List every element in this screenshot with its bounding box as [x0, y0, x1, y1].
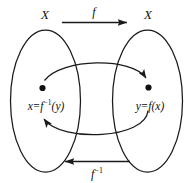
x-element-label: x=f−1(y) — [28, 98, 65, 112]
forward-map-label: f — [92, 5, 95, 20]
y-element-dot — [145, 84, 151, 90]
x-element-label-argument: (y) — [52, 100, 65, 112]
x-element-label-equals: = — [33, 100, 41, 112]
forward-map-label-text: f — [92, 5, 95, 19]
y-element-label: y=f(x) — [136, 98, 165, 112]
inverse-curve-arrow — [44, 111, 148, 135]
domain-set-label: X — [41, 7, 49, 23]
y-element-label-argument: (x) — [152, 100, 165, 112]
inverse-map-label: f−1 — [91, 166, 103, 182]
x-element-dot — [39, 85, 45, 91]
y-element-label-equals: = — [141, 100, 149, 112]
inverse-function-diagram: X X f f−1 x=f−1(y) y=f(x) — [0, 0, 192, 183]
x-element-label-exponent: −1 — [43, 98, 51, 107]
codomain-set-label: X — [144, 7, 152, 23]
forward-curve-arrow — [45, 63, 147, 81]
inverse-map-label-exponent: −1 — [94, 166, 102, 175]
diagram-canvas — [0, 0, 192, 183]
